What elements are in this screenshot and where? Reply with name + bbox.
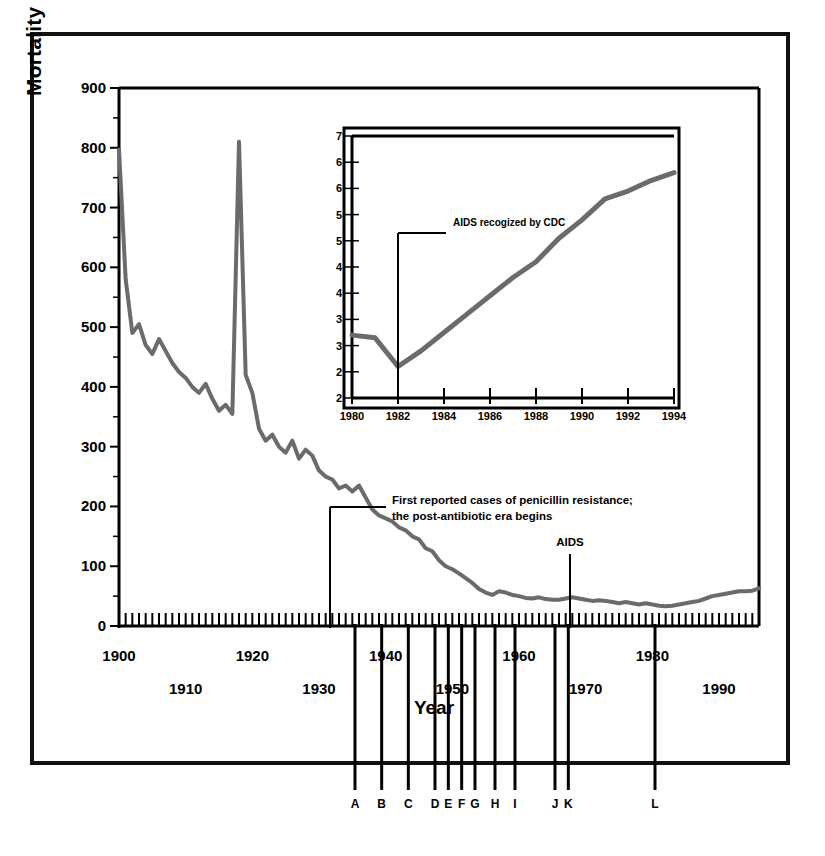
x-tick-label: 1930: [302, 680, 335, 697]
inset-y-tick-label: 7: [336, 130, 342, 142]
marker-letter-label: G: [470, 797, 479, 811]
inset-x-tick-label: 1982: [386, 410, 410, 422]
inset-x-tick-label: 1994: [662, 410, 687, 422]
inset-y-tick-label: 6: [336, 182, 342, 194]
inset-y-tick-label: 5: [336, 235, 342, 247]
inset-y-tick-label: 5: [336, 209, 342, 221]
x-tick-label: 1960: [502, 647, 535, 664]
inset-x-tick-label: 1984: [432, 410, 457, 422]
inset-y-tick-label: 6: [336, 156, 342, 168]
y-tick-label: 800: [81, 139, 106, 156]
marker-letter-label: E: [444, 797, 452, 811]
marker-letter-label: A: [351, 797, 360, 811]
x-tick-label: 1910: [169, 680, 202, 697]
marker-letter-label: C: [404, 797, 413, 811]
inset-annotation-label: AIDS recogized by CDC: [453, 217, 565, 228]
y-tick-label: 100: [81, 557, 106, 574]
x-tick-label: 1950: [436, 680, 469, 697]
x-tick-label: 1980: [636, 647, 669, 664]
marker-letter-label: D: [431, 797, 440, 811]
inset-y-tick-label: 2: [336, 392, 342, 404]
penicillin-annotation-line1: First reported cases of penicillin resis…: [392, 494, 633, 506]
y-tick-label: 600: [81, 258, 106, 275]
x-tick-label: 1970: [569, 680, 602, 697]
x-axis-hatching: [119, 613, 759, 626]
chart-canvas: 0100200300400500600700800900 First repor…: [34, 36, 779, 761]
y-tick-label: 300: [81, 438, 106, 455]
x-axis-title: Year: [414, 697, 455, 718]
marker-letter-label: B: [377, 797, 386, 811]
y-tick-label: 500: [81, 318, 106, 335]
inset-frame: [344, 128, 679, 408]
aids-annotation-label: AIDS: [556, 536, 584, 548]
inset-x-tick-label: 1986: [478, 410, 502, 422]
x-tick-label: 1900: [102, 647, 135, 664]
inset-x-tick-label: 1992: [616, 410, 640, 422]
marker-letter-label: I: [513, 797, 516, 811]
y-tick-label: 400: [81, 378, 106, 395]
inset-y-tick-label: 4: [336, 287, 343, 299]
inset-y-tick-label: 4: [336, 261, 343, 273]
inset-y-tick-label: 2: [336, 366, 342, 378]
y-tick-label: 900: [81, 79, 106, 96]
penicillin-annotation-line2: the post-antibiotic era begins: [392, 510, 552, 522]
y-tick-label: 0: [98, 617, 106, 634]
figure-page: Mortality Rates per 100,000 US populatio…: [0, 0, 825, 856]
x-tick-label: 1920: [236, 647, 269, 664]
marker-letter-label: F: [458, 797, 465, 811]
figure-frame: Mortality Rates per 100,000 US populatio…: [30, 32, 790, 765]
y-tick-label: 700: [81, 199, 106, 216]
inset-x-tick-label: 1980: [340, 410, 364, 422]
marker-letter-label: H: [491, 797, 500, 811]
inset-x-tick-label: 1990: [570, 410, 594, 422]
marker-letter-label: J: [552, 797, 559, 811]
inset-chart: 22334455667 1980198219841986198819901992…: [336, 128, 687, 422]
x-axis-labels: 1900191019201930194019501960197019801990: [102, 647, 735, 697]
x-tick-label: 1940: [369, 647, 402, 664]
x-tick-label: 1990: [702, 680, 735, 697]
y-axis-ticks: 0100200300400500600700800900: [81, 79, 119, 634]
marker-letter-label: K: [564, 797, 573, 811]
marker-letter-label: L: [651, 797, 658, 811]
y-tick-label: 200: [81, 497, 106, 514]
inset-y-tick-label: 3: [336, 340, 342, 352]
inset-y-tick-label: 3: [336, 313, 342, 325]
inset-x-tick-label: 1988: [524, 410, 548, 422]
